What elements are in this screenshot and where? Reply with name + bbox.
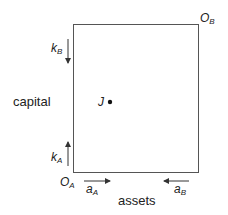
vertical-axis-label: capital bbox=[13, 96, 51, 108]
a-b-label: aB bbox=[174, 183, 186, 199]
origin-b-label: OB bbox=[200, 12, 215, 28]
point-j-label: J bbox=[98, 96, 104, 108]
point-j-dot bbox=[108, 100, 112, 104]
origin-a-label: OA bbox=[60, 176, 75, 192]
a-a-label: aA bbox=[86, 183, 98, 199]
k-a-label: kA bbox=[51, 151, 62, 167]
horizontal-axis-label: assets bbox=[118, 195, 156, 207]
k-b-label: kB bbox=[51, 42, 62, 58]
